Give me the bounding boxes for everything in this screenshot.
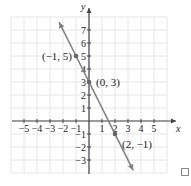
y-tick-label: 3 — [81, 77, 86, 88]
x-tick-label: −3 — [45, 123, 56, 134]
x-tick-label: −5 — [19, 123, 30, 134]
point-label: (2, −1) — [122, 138, 152, 151]
y-tick-label: 6 — [81, 38, 86, 49]
x-tick-label: 3 — [126, 123, 131, 134]
answer-checkbox[interactable] — [181, 168, 189, 176]
y-tick-label: 2 — [81, 90, 86, 101]
y-tick-label: 5 — [81, 51, 86, 62]
x-tick-label: 4 — [139, 123, 144, 134]
data-point — [74, 54, 79, 59]
x-tick-label: 5 — [152, 123, 157, 134]
data-point — [87, 80, 92, 85]
graph: −5−4−3−2−112345−3−2−11234567xy(−1, 5)(0,… — [0, 0, 191, 186]
x-axis-label: x — [175, 123, 181, 134]
y-axis-label: y — [80, 1, 86, 12]
point-label: (0, 3) — [96, 76, 120, 89]
y-tick-label: 7 — [81, 25, 86, 36]
data-point — [113, 132, 118, 137]
y-tick-label: −3 — [75, 155, 86, 166]
x-tick-label: −4 — [32, 123, 43, 134]
y-tick-label: −2 — [75, 142, 86, 153]
y-tick-label: −1 — [75, 129, 86, 140]
y-tick-label: 1 — [81, 103, 86, 114]
x-tick-label: 1 — [100, 123, 105, 134]
y-axis-arrow-icon — [87, 8, 92, 13]
x-tick-label: −2 — [58, 123, 69, 134]
point-label: (−1, 5) — [42, 50, 72, 63]
